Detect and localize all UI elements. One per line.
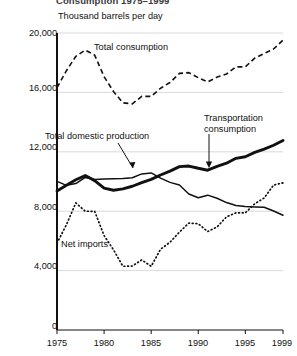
axis-lines — [57, 33, 283, 334]
series-line-total-consumption — [57, 40, 283, 104]
gridlines — [57, 33, 283, 271]
data-series — [57, 40, 283, 266]
series-line-net-imports — [57, 183, 283, 266]
series-line-transportation-consumption — [57, 141, 283, 191]
leader-arrowhead-transportation — [206, 162, 212, 169]
annotation-leaders — [118, 134, 212, 168]
plot-canvas — [0, 0, 297, 356]
chart-figure: Consumption 1975–1999 Thousand barrels p… — [0, 0, 297, 356]
